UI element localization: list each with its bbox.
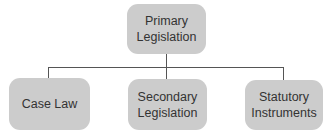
node-label: Legislation xyxy=(137,29,197,45)
connector-case-law xyxy=(48,67,49,78)
connector-secondary xyxy=(166,67,167,79)
connector-root-stem xyxy=(166,54,167,67)
node-label: Instruments xyxy=(251,105,316,121)
node-label: Case Law xyxy=(22,96,78,112)
node-label: Primary xyxy=(137,13,197,29)
node-label: Legislation xyxy=(138,105,198,121)
node-label: Secondary xyxy=(138,89,198,105)
node-case-law: Case Law xyxy=(9,78,90,130)
node-label: Statutory xyxy=(251,89,316,105)
connector-statutory xyxy=(283,67,284,80)
node-secondary-legislation: Secondary Legislation xyxy=(128,79,207,130)
node-primary-legislation: Primary Legislation xyxy=(127,4,206,54)
node-statutory-instruments: Statutory Instruments xyxy=(245,80,323,130)
